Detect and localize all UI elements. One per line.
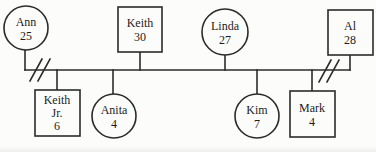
person-age: 7 [254,117,260,131]
separation-slashes-icon-right [319,60,339,82]
genogram-diagram: Ann 25 Keith 30 Linda 27 Al 28 Keith Jr.… [0,0,376,152]
genogram-page: Ann 25 Keith 30 Linda 27 Al 28 Keith Jr.… [0,0,376,152]
person-age: 6 [54,119,60,133]
person-name: Mark [299,101,325,115]
person-name: Keith [44,93,71,107]
person-age: 4 [111,117,117,131]
person-name: Anita [101,103,128,117]
person-name: Kim [246,103,268,117]
person-age: 27 [219,33,231,47]
person-name: Linda [211,19,240,33]
person-name-suffix: Jr. [51,106,62,120]
person-name: Al [344,19,357,33]
person-age: 28 [344,33,356,47]
person-name: Keith [127,16,154,30]
person-age: 4 [309,115,315,129]
person-name: Ann [16,15,37,29]
connector-lines [25,50,350,94]
person-age: 25 [20,29,32,43]
person-age: 30 [134,30,146,44]
